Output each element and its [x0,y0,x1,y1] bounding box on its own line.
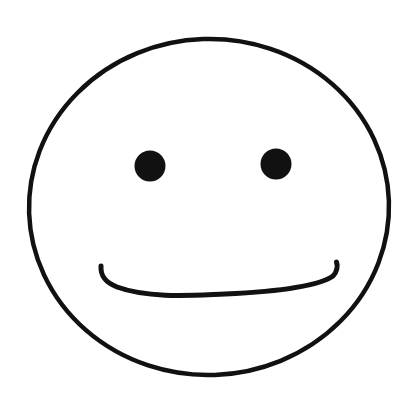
smiley-face-illustration [0,0,411,404]
canvas-background [0,0,411,404]
right-eye-icon [261,149,292,180]
drawing-canvas [0,0,411,404]
left-eye-icon [135,151,166,182]
